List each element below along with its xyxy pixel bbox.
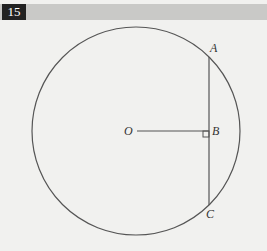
label-b: B: [212, 124, 220, 138]
label-o: O: [124, 124, 133, 138]
label-c: C: [206, 207, 215, 221]
label-a: A: [209, 41, 218, 55]
circle-diagram: O B A C: [0, 0, 267, 251]
right-angle-marker: [203, 131, 209, 137]
